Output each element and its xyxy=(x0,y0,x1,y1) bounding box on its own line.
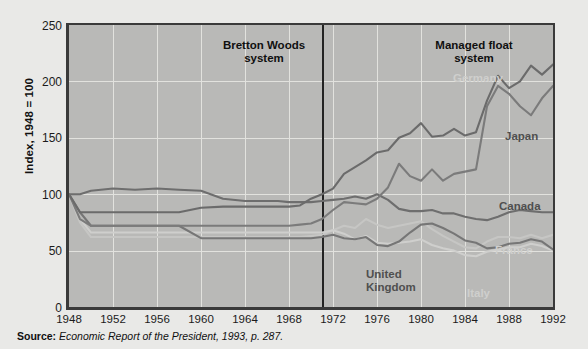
plot-area: Bretton Woods systemManaged float system… xyxy=(66,23,555,310)
source-label: Source: xyxy=(17,330,56,342)
y-tick-label: 150 xyxy=(42,131,62,145)
era-label-managed-float: Managed float system xyxy=(399,39,549,65)
plot-inner: Bretton Woods systemManaged float system… xyxy=(69,25,553,307)
x-tick-label: 1988 xyxy=(496,313,522,325)
x-tick-label: 1948 xyxy=(56,313,82,325)
x-tick-label: 1960 xyxy=(188,313,214,325)
x-tick-label: 1964 xyxy=(232,313,258,325)
y-axis-ticks: 050100150200250 xyxy=(24,0,62,349)
source-note: Source: Economic Report of the President… xyxy=(17,330,283,342)
y-tick-label: 100 xyxy=(42,188,62,202)
era-label-bretton-woods: Bretton Woods system xyxy=(189,39,339,65)
series-label-italy: Italy xyxy=(467,287,490,300)
x-tick-label: 1956 xyxy=(144,313,170,325)
series-line-canada xyxy=(69,189,553,221)
y-tick-label: 200 xyxy=(42,75,62,89)
series-label-germany: Germany xyxy=(453,72,503,85)
y-tick-label: 250 xyxy=(42,19,62,33)
series-lines xyxy=(69,25,553,307)
top-crop-strip xyxy=(0,0,588,9)
series-line-japan xyxy=(69,86,553,226)
x-tick-label: 1984 xyxy=(452,313,478,325)
y-tick-label: 50 xyxy=(49,244,62,258)
x-tick-label: 1972 xyxy=(320,313,346,325)
series-label-japan: Japan xyxy=(505,130,538,143)
x-tick-label: 1968 xyxy=(276,313,302,325)
chart-figure: Index, 1948 = 100 050100150200250 Bretto… xyxy=(0,0,588,349)
x-tick-label: 1992 xyxy=(540,313,566,325)
series-label-canada: Canada xyxy=(499,200,541,213)
x-tick-label: 1976 xyxy=(364,313,390,325)
series-label-united-kingdom: United Kingdom xyxy=(366,268,416,294)
series-label-france: France xyxy=(495,244,533,257)
x-tick-label: 1980 xyxy=(408,313,434,325)
x-tick-label: 1952 xyxy=(100,313,126,325)
source-text: Economic Report of the President, 1993, … xyxy=(59,330,283,342)
